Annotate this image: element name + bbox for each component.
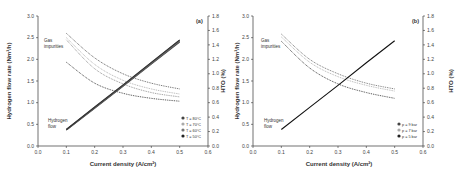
hto-curve	[66, 40, 179, 97]
y-axis-title-a: Hydrogen flow rate (Nm³/h)	[6, 42, 12, 119]
panel-tag-b: (b)	[412, 18, 419, 24]
chart-b-series	[281, 34, 394, 129]
y2-tick-label: 0.6	[427, 99, 434, 105]
y-tick-label: 0.5	[242, 121, 249, 127]
x-tick-label: 0.6	[205, 149, 212, 155]
y2-tick-label: 0.2	[212, 128, 219, 134]
legend-b: p = 9 bar p = 7 bar p = 5 bar	[397, 122, 417, 138]
legend-item-a-3: T = 50°C	[186, 135, 201, 139]
x-tick-label: 0.5	[176, 149, 183, 155]
chart-a-series	[66, 33, 179, 130]
y2-tick-label: 0.8	[212, 85, 219, 91]
y2-tick-label: 1.8	[212, 13, 219, 19]
y2-tick-label: 0.4	[427, 114, 434, 120]
chart-b-svg: 0.00.10.20.30.40.50.60.00.51.01.52.02.53…	[229, 0, 459, 173]
y2-tick-label: 0.0	[427, 143, 434, 149]
y2-tick-label: 1.4	[212, 42, 219, 48]
legend-item-b-2: p = 5 bar	[402, 135, 418, 139]
y-tick-label: 1.5	[27, 78, 34, 84]
x-tick-label: 0.2	[91, 149, 98, 155]
y2-tick-label: 0.6	[212, 99, 219, 105]
legend-marker-icon	[181, 122, 184, 125]
x-tick-label: 0.4	[363, 149, 370, 155]
legend-item-a-1: T = 70°C	[186, 123, 201, 127]
x-tick-label: 0.5	[391, 149, 398, 155]
y2-tick-label: 0.0	[212, 143, 219, 149]
x-tick-label: 0.2	[306, 149, 313, 155]
y-tick-label: 1.0	[242, 99, 249, 105]
y-tick-label: 0.0	[27, 143, 34, 149]
legend-item-b-0: p = 9 bar	[402, 123, 418, 127]
legend-marker-icon	[181, 116, 184, 119]
gas-impurities-label-b-1: Gas	[261, 38, 270, 43]
y-tick-label: 3.0	[242, 13, 249, 19]
x-axis-title-b: Current density (A/cm²)	[306, 161, 373, 167]
gas-impurities-label-b-2: impurities	[261, 44, 281, 49]
legend-item-a-2: T = 60°C	[186, 129, 201, 133]
y-tick-label: 1.0	[27, 99, 34, 105]
hydrogen-flow-line	[66, 40, 179, 130]
chart-panel-a: 0.00.10.20.30.40.50.60.00.51.01.52.02.53…	[0, 0, 229, 173]
x-tick-label: 0.1	[278, 149, 285, 155]
hydrogen-flow-line	[281, 41, 394, 130]
hto-curve	[66, 33, 179, 89]
hydrogen-flow-label-b-1: Hydrogen	[264, 118, 284, 123]
x-tick-label: 0.4	[148, 149, 155, 155]
legend-marker-icon	[397, 128, 400, 131]
gas-impurities-label-a-2: impurities	[44, 44, 64, 49]
hydrogen-flow-label-a-1: Hydrogen	[48, 118, 68, 123]
legend-marker-icon	[181, 128, 184, 131]
y2-tick-label: 0.8	[427, 85, 434, 91]
y2-tick-label: 0.4	[212, 114, 219, 120]
hydrogen-flow-label-a-2: flow	[48, 124, 57, 129]
y-tick-label: 3.0	[27, 13, 34, 19]
y2-tick-label: 1.6	[427, 27, 434, 33]
y-tick-label: 2.5	[242, 34, 249, 40]
hto-curve	[281, 34, 394, 89]
y-tick-label: 2.0	[242, 56, 249, 62]
y2-tick-label: 1.0	[212, 70, 219, 76]
legend-item-b-1: p = 7 bar	[402, 129, 418, 133]
y-tick-label: 2.5	[27, 34, 34, 40]
y2-tick-label: 1.6	[212, 27, 219, 33]
hydrogen-flow-label-b-2: flow	[264, 124, 273, 129]
y2-axis-title-a: HTO (%)	[220, 69, 226, 93]
y2-tick-label: 1.8	[427, 13, 434, 19]
y2-tick-label: 0.2	[427, 128, 434, 134]
y-tick-label: 2.0	[27, 56, 34, 62]
chart-panel-b: 0.00.10.20.30.40.50.60.00.51.01.52.02.53…	[229, 0, 458, 173]
x-tick-label: 0.1	[63, 149, 70, 155]
y2-tick-label: 1.0	[427, 70, 434, 76]
chart-a-svg: 0.00.10.20.30.40.50.60.00.51.01.52.02.53…	[0, 0, 229, 173]
legend-marker-icon	[397, 134, 400, 137]
x-tick-label: 0.0	[35, 149, 42, 155]
y-tick-label: 0.5	[27, 121, 34, 127]
y-tick-label: 0.0	[242, 143, 249, 149]
y2-axis-title-b: HTO (%)	[448, 69, 454, 93]
legend-a: T = 80°C T = 70°C T = 60°C T = 50°C	[181, 116, 201, 138]
x-tick-label: 0.0	[250, 149, 257, 155]
legend-marker-icon	[181, 134, 184, 137]
hto-curve	[281, 41, 394, 98]
x-axis-title-a: Current density (A/cm²)	[90, 161, 157, 167]
legend-item-a-0: T = 80°C	[186, 117, 201, 121]
x-tick-label: 0.6	[420, 149, 427, 155]
gas-impurities-label-a-1: Gas	[44, 38, 53, 43]
y2-tick-label: 1.2	[212, 56, 219, 62]
y-axis-title-b: Hydrogen flow rate (Nm³/h)	[234, 42, 240, 119]
hto-curve	[66, 62, 179, 101]
hto-curve	[281, 37, 394, 91]
y-tick-label: 1.5	[242, 78, 249, 84]
y2-tick-label: 1.2	[427, 56, 434, 62]
x-tick-label: 0.3	[335, 149, 342, 155]
y2-tick-label: 1.4	[427, 42, 434, 48]
legend-marker-icon	[397, 122, 400, 125]
x-tick-label: 0.3	[120, 149, 127, 155]
panel-tag-a: (a)	[196, 18, 203, 24]
